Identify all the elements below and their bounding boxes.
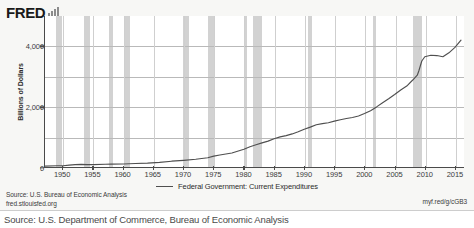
plot-frame (44, 16, 464, 168)
chart-short-url[interactable]: myf.red/g/cGB3 (423, 198, 467, 205)
x-axis-tick-label: 2015 (447, 170, 463, 179)
y-axis-tick-labels: 02,0004,000 (0, 16, 44, 168)
legend-color-swatch (156, 186, 173, 188)
x-axis-tick-mark (395, 166, 396, 170)
caption-text: Source: U.S. Department of Commerce, Bur… (0, 214, 289, 225)
x-axis-tick-mark (425, 166, 426, 170)
x-axis-tick-mark (455, 166, 456, 170)
x-axis-tick-mark (123, 166, 124, 170)
x-axis-tick-labels: 1950195519601965197019751980198519901995… (44, 170, 464, 182)
x-axis-tick-mark (304, 166, 305, 170)
x-axis-tick-label: 1955 (84, 170, 100, 179)
x-axis-tick-label: 1975 (205, 170, 221, 179)
x-axis-tick-label: 2000 (356, 170, 372, 179)
x-axis-tick-label: 1995 (326, 170, 342, 179)
fred-site-url[interactable]: fred.stlouisfed.org (6, 199, 127, 208)
x-axis-tick-label: 2010 (417, 170, 433, 179)
series-federal-expenditures (45, 40, 461, 166)
source-attribution: Source: U.S. Bureau of Economic Analysis… (6, 190, 127, 209)
legend-series-label: Federal Government: Current Expenditures (178, 182, 318, 191)
x-axis-tick-label: 1960 (114, 170, 130, 179)
x-axis-tick-mark (334, 166, 335, 170)
x-axis-tick-mark (364, 166, 365, 170)
x-axis-tick-mark (62, 166, 63, 170)
x-axis-tick-label: 1965 (145, 170, 161, 179)
x-axis-tick-mark (183, 166, 184, 170)
x-axis-tick-label: 2005 (386, 170, 402, 179)
x-axis-tick-label: 1990 (296, 170, 312, 179)
x-axis-tick-label: 1980 (235, 170, 251, 179)
x-axis-tick-mark (153, 166, 154, 170)
x-axis-tick-mark (213, 166, 214, 170)
plot-area (44, 16, 464, 168)
fred-chart-figure: FRED Billions of Dollars 02,0004,000 195… (0, 0, 474, 210)
source-line: Source: U.S. Bureau of Economic Analysis (6, 190, 127, 199)
x-axis-tick-mark (92, 166, 93, 170)
y-axis-tick-label: 2,000 (4, 103, 44, 112)
y-axis-tick-label: 4,000 (4, 42, 44, 51)
x-axis-tick-mark (243, 166, 244, 170)
y-axis-tick-label: 0 (4, 164, 44, 173)
x-axis-tick-label: 1950 (54, 170, 70, 179)
x-axis-tick-mark (274, 166, 275, 170)
caption-bar: Source: U.S. Department of Commerce, Bur… (0, 210, 474, 228)
series-line-chart (45, 16, 464, 167)
x-axis-tick-label: 1985 (265, 170, 281, 179)
x-axis-tick-label: 1970 (175, 170, 191, 179)
